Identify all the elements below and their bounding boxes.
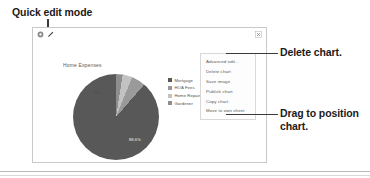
leader-line-delete-chart — [226, 53, 278, 55]
legend-item: HOA Fees — [168, 85, 200, 92]
chart-title: Home Expenses — [63, 62, 102, 68]
legend-item: Gardener — [168, 100, 200, 107]
menu-item-advanced-edit[interactable]: Advanced edit... — [201, 57, 255, 67]
legend-swatch — [168, 94, 172, 98]
page-divider — [0, 171, 370, 172]
chart-body: Home Expenses 88.6% 5% Mortgage HOA Fees… — [33, 41, 266, 162]
menu-item-publish-chart[interactable]: Publish chart — [201, 86, 255, 96]
menu-item-delete-chart[interactable]: Delete chart — [201, 67, 255, 77]
legend-swatch — [168, 78, 172, 82]
legend-item: Home Repair — [168, 92, 200, 99]
leader-line-drag-position — [226, 114, 278, 116]
chart-context-menu[interactable]: Advanced edit... Delete chart Save image… — [200, 53, 256, 120]
chart-panel[interactable]: Home Expenses 88.6% 5% Mortgage HOA Fees… — [32, 27, 267, 163]
close-icon[interactable] — [255, 31, 262, 38]
pencil-icon[interactable] — [47, 31, 54, 38]
legend-label: Gardener — [175, 101, 194, 106]
chart-legend: Mortgage HOA Fees Home Repair Gardener — [168, 77, 200, 108]
callout-drag-position-chart: Drag to position chart. — [280, 107, 368, 132]
legend-label: HOA Fees — [175, 85, 195, 90]
pie-chart[interactable]: 88.6% 5% — [73, 74, 159, 160]
pie-slices — [73, 74, 159, 160]
pie-slice-label-minor: 5% — [94, 90, 100, 95]
pie-slice-label-major: 88.6% — [129, 137, 141, 142]
gear-icon[interactable] — [37, 31, 44, 38]
legend-swatch — [168, 101, 172, 105]
legend-label: Home Repair — [175, 93, 201, 98]
page-divider-secondary — [0, 175, 370, 176]
chart-panel-toolbar — [33, 28, 266, 41]
legend-label: Mortgage — [175, 78, 194, 83]
callout-quick-edit-mode: Quick edit mode — [12, 6, 92, 19]
menu-item-save-image[interactable]: Save image — [201, 77, 255, 87]
callout-delete-chart: Delete chart. — [280, 46, 342, 59]
legend-item: Mortgage — [168, 77, 200, 84]
menu-item-copy-chart[interactable]: Copy chart — [201, 96, 255, 106]
legend-swatch — [168, 86, 172, 90]
